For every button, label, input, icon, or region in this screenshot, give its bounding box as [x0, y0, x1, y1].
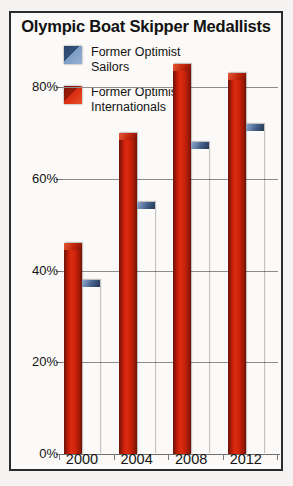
- bar-blue-2012: [246, 124, 264, 454]
- x-axis-tick-mark: [277, 454, 278, 460]
- bar-red-2004: [119, 133, 137, 454]
- y-axis-tick-label: 40%: [9, 263, 58, 278]
- x-axis-label-2000: 2000: [58, 451, 106, 467]
- y-axis-tick-label: 80%: [9, 79, 58, 94]
- bar-red-2008: [173, 64, 191, 454]
- x-axis-label-2012: 2012: [222, 451, 270, 467]
- plot-area: 0%20%40%60%80%2000200420082012: [11, 13, 283, 471]
- y-axis-tick-label: 20%: [9, 354, 58, 369]
- bar-red-2012: [228, 73, 246, 454]
- x-axis-tick-mark: [59, 454, 60, 460]
- x-axis-label-2004: 2004: [113, 451, 161, 467]
- bar-blue-2008: [191, 142, 209, 454]
- bar-red-2000: [64, 243, 82, 454]
- page-background: Olympic Boat Skipper Medallists Former O…: [0, 0, 293, 486]
- y-axis-tick-label: 60%: [9, 171, 58, 186]
- bar-blue-2000: [82, 280, 100, 454]
- y-axis-tick-label: 0%: [9, 446, 58, 461]
- bar-blue-2004: [137, 202, 155, 454]
- chart-frame: Olympic Boat Skipper Medallists Former O…: [9, 11, 283, 471]
- x-axis-label-2008: 2008: [167, 451, 215, 467]
